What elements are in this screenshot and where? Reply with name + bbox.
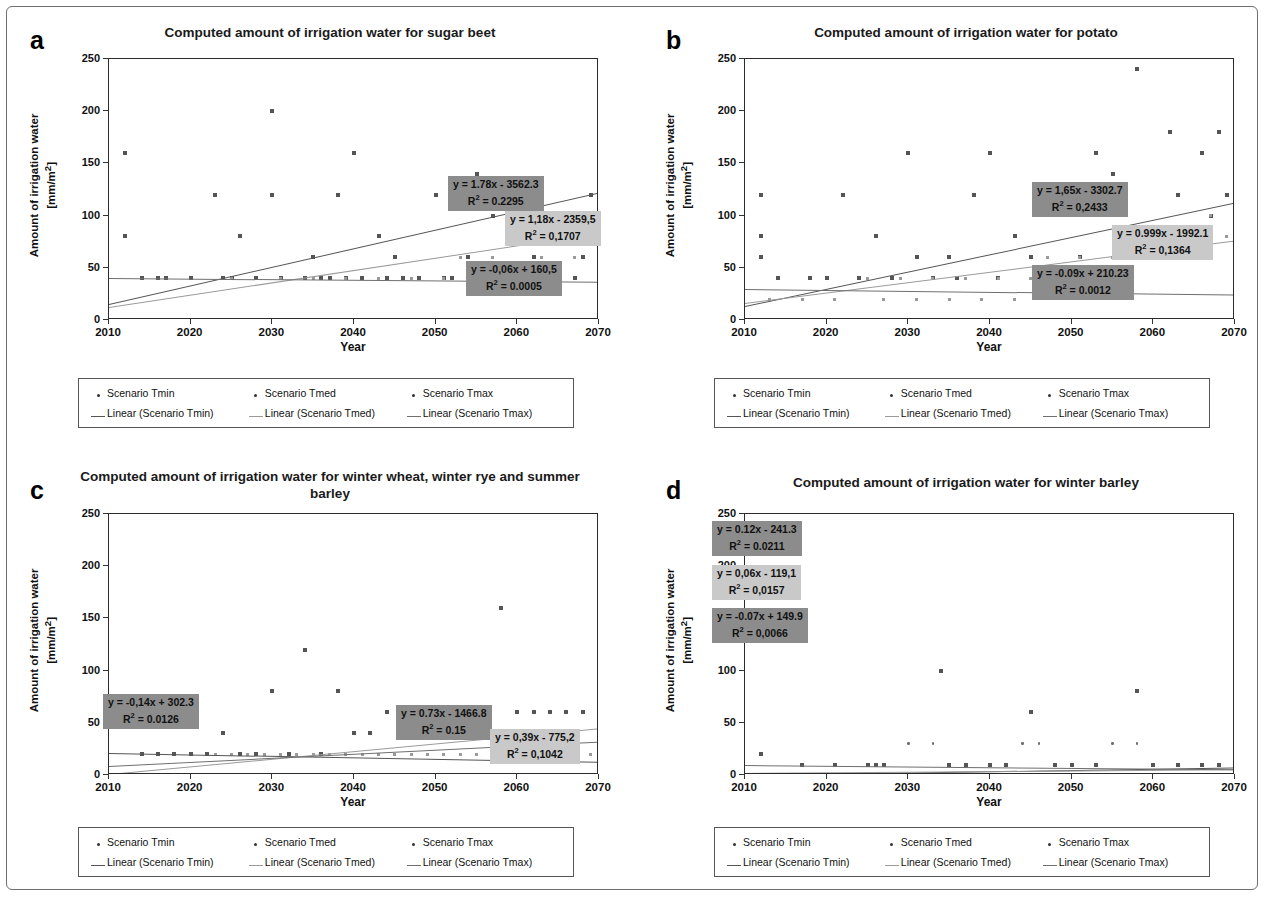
x-tick-mark: [108, 319, 109, 324]
x-tick-label: 2070: [1221, 326, 1247, 338]
panel-d-title: Computed amount of irrigation water for …: [706, 474, 1226, 491]
panel-d-x-axis-label: Year: [744, 795, 1234, 809]
y-tick-label: 250: [68, 52, 100, 64]
data-point: [1038, 742, 1041, 745]
x-tick-mark: [271, 774, 272, 779]
data-point: [246, 319, 249, 320]
data-point: [817, 774, 820, 775]
data-point: [410, 753, 413, 756]
panel-d-letter: d: [666, 478, 681, 503]
data-point: [540, 256, 543, 259]
x-tick-mark: [1152, 774, 1153, 779]
legend-label-tmin: Scenario Tmin: [743, 836, 811, 848]
data-point: [932, 742, 935, 745]
x-tick-mark: [353, 774, 354, 779]
panel-d-equation-tmin: y = 0.12x - 241.3 R2 = 0.0211: [712, 521, 802, 556]
data-point: [874, 234, 878, 238]
data-point: [393, 753, 396, 756]
legend-label-tmed: Scenario Tmed: [901, 836, 972, 848]
data-point: [263, 319, 266, 320]
y-tick-label: 0: [704, 768, 736, 780]
data-point: [1151, 763, 1155, 767]
panel-c-equation-tmin: y = -0,14x + 302.3 R2 = 0.0126: [103, 694, 199, 729]
data-point: [221, 731, 225, 735]
data-point: [1127, 774, 1130, 775]
data-point: [491, 256, 494, 259]
data-point: [964, 763, 968, 767]
legend-line-tmed-icon: [883, 407, 901, 419]
panel-c-equation-tmax: y = 0,39x - 775,2 R2 = 0,1042: [490, 729, 580, 764]
data-point: [515, 710, 519, 714]
panel-c-r2-tmed: R2 = 0.15: [401, 720, 487, 737]
panel-a-title: Computed amount of irrigation water for …: [70, 24, 590, 41]
data-point: [1062, 774, 1065, 775]
panel-b-legend: Scenario Tmin Scenario Tmed Scenario Tma…: [714, 378, 1210, 428]
panel-c-r2-tmax: R2 = 0,1042: [495, 744, 575, 761]
x-tick-label: 2020: [813, 326, 839, 338]
x-tick-label: 2060: [504, 326, 530, 338]
y-tick-mark: [739, 162, 744, 163]
data-point: [1094, 763, 1098, 767]
data-point: [759, 193, 763, 197]
x-tick-label: 2010: [731, 781, 757, 793]
data-point: [833, 774, 836, 775]
data-point: [573, 256, 576, 259]
data-point: [915, 774, 918, 775]
legend-dot-tmin-icon: [89, 836, 107, 848]
data-point: [181, 774, 184, 775]
data-point: [801, 774, 804, 775]
panel-d-equation-tmed: y = 0,06x - 119,1 R2 = 0,0157: [712, 565, 801, 600]
data-point: [336, 689, 340, 693]
data-point: [784, 319, 787, 320]
data-point: [1217, 763, 1221, 767]
legend-label-linear-tmin: Linear (Scenario Tmin): [743, 407, 850, 419]
data-point: [238, 234, 242, 238]
x-tick-label: 2030: [895, 326, 921, 338]
data-point: [1225, 235, 1228, 238]
data-point: [123, 234, 127, 238]
data-point: [931, 774, 934, 775]
data-point: [850, 774, 853, 775]
y-tick-label: 150: [68, 611, 100, 623]
y-tick-mark: [103, 110, 108, 111]
y-tick-mark: [739, 215, 744, 216]
data-point: [475, 753, 478, 756]
data-point: [1225, 193, 1229, 197]
x-tick-mark: [989, 319, 990, 324]
data-point: [1046, 256, 1049, 259]
x-tick-label: 2050: [422, 781, 448, 793]
y-tick-mark: [739, 267, 744, 268]
y-tick-label: 250: [704, 507, 736, 519]
panel-a-r2-tmax: R2 = 0.0005: [471, 276, 557, 293]
panel-d-plot-area: [744, 513, 1234, 774]
legend-label-tmed: Scenario Tmed: [265, 387, 336, 399]
data-point: [442, 277, 445, 280]
data-point: [116, 774, 119, 775]
data-point: [980, 774, 983, 775]
data-point: [882, 298, 885, 301]
x-tick-label: 2040: [976, 781, 1002, 793]
data-point: [459, 753, 462, 756]
panel-d-r2-tmax: R2 = 0,0066: [717, 623, 803, 640]
panel-b-r2-tmax: R2 = 0.0012: [1037, 280, 1129, 297]
y-tick-label: 0: [704, 313, 736, 325]
x-tick-mark: [1152, 319, 1153, 324]
panel-a-x-axis-label: Year: [108, 340, 598, 354]
data-point: [393, 319, 396, 320]
x-tick-label: 2070: [1221, 781, 1247, 793]
x-tick-label: 2070: [585, 781, 611, 793]
x-tick-label: 2050: [1058, 781, 1084, 793]
y-tick-label: 50: [68, 716, 100, 728]
data-point: [915, 298, 918, 301]
legend-label-tmed: Scenario Tmed: [265, 836, 336, 848]
panel-b-equation-tmax: y = -0.09x + 210.23 R2 = 0.0012: [1032, 265, 1134, 300]
data-point: [368, 318, 372, 319]
legend-label-linear-tmed: Linear (Scenario Tmed): [901, 407, 1011, 419]
legend-dot-tmax-icon: [405, 387, 423, 399]
data-point: [213, 193, 217, 197]
x-tick-mark: [598, 774, 599, 779]
data-point: [759, 255, 763, 259]
x-tick-mark: [190, 319, 191, 324]
data-point: [948, 298, 951, 301]
x-tick-label: 2030: [895, 781, 921, 793]
